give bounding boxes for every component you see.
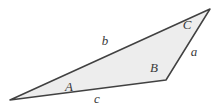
- angle-label-B: B: [150, 60, 158, 75]
- angle-label-C: C: [183, 17, 192, 32]
- triangle-shape: [10, 9, 210, 100]
- angle-label-A: A: [64, 79, 73, 94]
- side-label-a: a: [191, 44, 198, 59]
- side-label-c: c: [94, 91, 100, 106]
- triangle-figure: A B C a b c: [0, 0, 215, 110]
- triangle-diagram: A B C a b c: [0, 0, 215, 110]
- side-label-b: b: [102, 33, 109, 48]
